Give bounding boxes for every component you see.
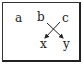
arrow-c-to-x: [45, 22, 60, 38]
edges-layer: [0, 0, 82, 66]
arrow-b-to-y: [47, 23, 63, 38]
